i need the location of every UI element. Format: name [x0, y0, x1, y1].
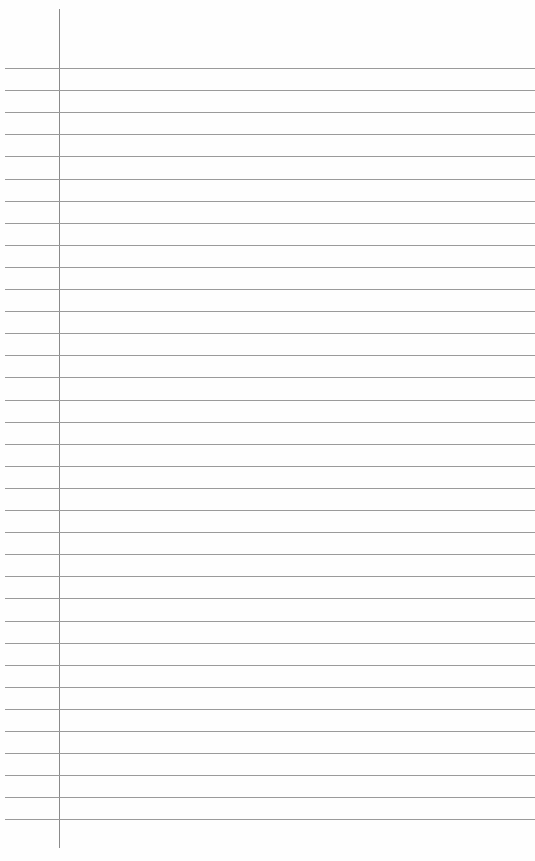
ruled-line: [5, 68, 535, 69]
ruled-line: [5, 444, 535, 445]
ruled-line: [5, 134, 535, 135]
ruled-line: [5, 267, 535, 268]
ruled-line: [5, 753, 535, 754]
lined-paper: [0, 0, 535, 861]
ruled-line: [5, 201, 535, 202]
ruled-line: [5, 355, 535, 356]
ruled-line: [5, 775, 535, 776]
ruled-line: [5, 90, 535, 91]
ruled-line: [5, 311, 535, 312]
ruled-line: [5, 510, 535, 511]
ruled-line: [5, 333, 535, 334]
ruled-line: [5, 289, 535, 290]
ruled-line: [5, 687, 535, 688]
ruled-line: [5, 621, 535, 622]
ruled-line: [5, 466, 535, 467]
ruled-line: [5, 422, 535, 423]
ruled-line: [5, 598, 535, 599]
ruled-line: [5, 532, 535, 533]
ruled-line: [5, 156, 535, 157]
ruled-line: [5, 179, 535, 180]
ruled-line: [5, 797, 535, 798]
ruled-line: [5, 554, 535, 555]
ruled-line: [5, 819, 535, 820]
ruled-line: [5, 488, 535, 489]
ruled-line: [5, 576, 535, 577]
ruled-line: [5, 665, 535, 666]
ruled-line: [5, 643, 535, 644]
ruled-line: [5, 400, 535, 401]
ruled-line: [5, 709, 535, 710]
ruled-line: [5, 731, 535, 732]
ruled-line: [5, 223, 535, 224]
ruled-line: [5, 377, 535, 378]
ruled-line: [5, 112, 535, 113]
ruled-line: [5, 245, 535, 246]
